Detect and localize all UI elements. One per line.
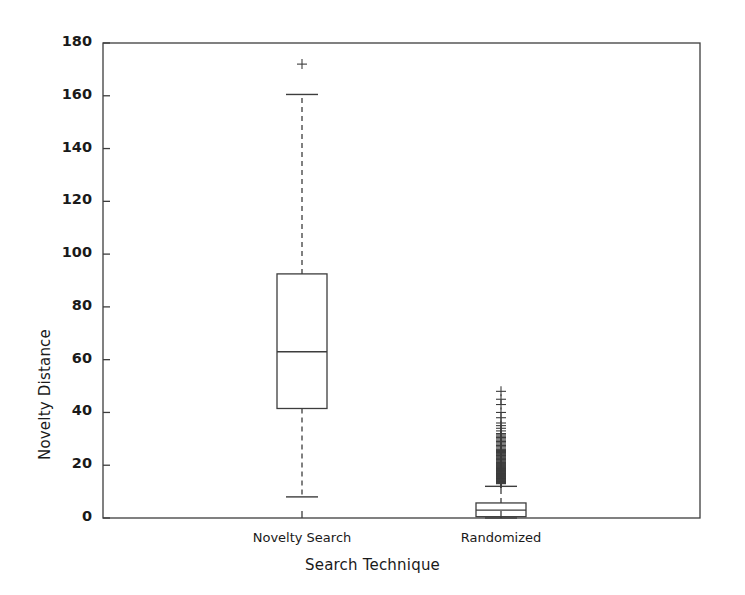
y-axis-title: Novelty Distance <box>36 329 54 460</box>
y-tick-label: 100 <box>30 244 92 260</box>
plot-frame <box>103 43 700 518</box>
y-tick-label: 140 <box>30 139 92 155</box>
y-tick-label: 80 <box>30 297 92 313</box>
y-tick-label: 180 <box>30 33 92 49</box>
figure-canvas: 020406080100120140160180 Novelty SearchR… <box>0 0 745 595</box>
y-tick-label: 0 <box>30 508 92 524</box>
x-tick-label-1: Novelty Search <box>192 530 412 545</box>
x-axis-title: Search Technique <box>0 556 745 574</box>
y-tick-label: 120 <box>30 191 92 207</box>
y-tick-label: 160 <box>30 86 92 102</box>
x-tick-label-2: Randomized <box>391 530 611 545</box>
boxplot-chart <box>0 0 745 595</box>
